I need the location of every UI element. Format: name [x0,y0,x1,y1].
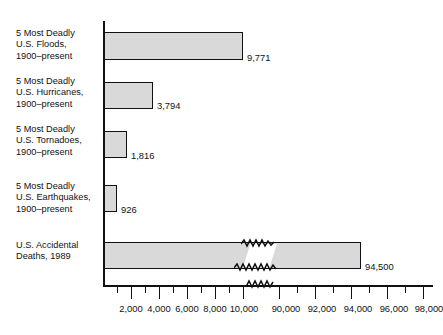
x-tick-minor [297,286,298,293]
x-tick-major [131,286,132,299]
x-tick-minor [333,286,334,293]
x-tick-major [187,286,188,299]
bar-accidental-deaths [104,242,361,269]
x-tick-label: 98,000 [415,303,443,314]
category-label-accidental-deaths: U.S. Accidental Deaths, 1989 [16,240,102,263]
x-tick-minor [145,286,146,293]
category-label-hurricanes: 5 Most Deadly U.S. Hurricanes, 1900–pres… [16,76,102,110]
x-tick-minor [405,286,406,293]
x-tick-major [423,286,424,299]
x-tick-major [315,286,316,299]
x-tick-major [387,286,388,299]
x-tick-label: 6,000 [175,303,198,314]
bar-axis-break-zigzag-top [241,238,283,248]
x-tick-label: 92,000 [308,303,337,314]
x-tick-minor [369,286,370,293]
category-label-floods: 5 Most Deadly U.S. Floods, 1900–present [16,28,102,62]
x-tick-major [279,286,280,299]
bar-value-hurricanes: 3,794 [157,100,180,111]
bar-value-tornadoes: 1,816 [131,150,154,161]
category-label-earthquakes: 5 Most Deadly U.S. Earthquakes, 1900–pre… [16,181,102,215]
x-axis-break-zigzag [246,278,278,290]
x-tick-minor [201,286,202,293]
bar-hurricanes [104,82,153,109]
bar-axis-break-zigzag-bottom [234,261,282,273]
x-tick-minor [117,286,118,293]
x-tick-minor [229,286,230,293]
bar-floods [104,32,243,60]
x-tick-label: 96,000 [380,303,409,314]
x-tick-label: 10,000 [230,303,259,314]
x-tick-minor [173,286,174,293]
bar-value-accidental-deaths: 94,500 [365,261,394,272]
bar-tornadoes [104,131,127,158]
x-tick-major [243,286,244,299]
x-tick-label: 94,000 [344,303,373,314]
bar-value-floods: 9,771 [247,52,270,63]
bar-earthquakes [104,185,117,212]
bar-value-earthquakes: 926 [121,204,137,215]
category-label-tornadoes: 5 Most Deadly U.S. Tornadoes, 1900–prese… [16,124,102,158]
x-tick-major [159,286,160,299]
x-tick-major [351,286,352,299]
x-tick-label: 8,000 [203,303,226,314]
x-tick-label: 90,000 [272,303,301,314]
x-tick-label: 2,000 [119,303,142,314]
x-tick-major [215,286,216,299]
x-tick-label: 4,000 [147,303,170,314]
